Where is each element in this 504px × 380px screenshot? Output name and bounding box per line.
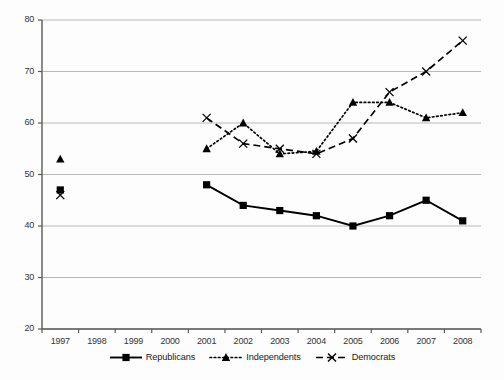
x-tick-label-1999: 1999 xyxy=(115,336,152,346)
data-point-independents-2001 xyxy=(202,144,210,152)
legend-item-democrats[interactable]: Democrats xyxy=(315,352,396,363)
data-point-republicans-2005 xyxy=(349,222,356,229)
legend-label-democrats: Democrats xyxy=(352,352,396,363)
chart-plot-area xyxy=(0,0,504,380)
x-tick-label-1998: 1998 xyxy=(79,336,116,346)
legend-swatch-x-icon xyxy=(315,352,349,363)
data-point-republicans-2003 xyxy=(276,207,283,214)
x-tick-label-2003: 2003 xyxy=(262,336,299,346)
y-tick-label-60: 60 xyxy=(8,117,34,127)
y-tick-label-40: 40 xyxy=(8,220,34,230)
legend-swatch-triangle-icon xyxy=(209,352,243,363)
legend-label-independents: Independents xyxy=(246,352,301,363)
y-tick-label-20: 20 xyxy=(8,323,34,333)
y-tick-label-80: 80 xyxy=(8,14,34,24)
x-tick-label-2005: 2005 xyxy=(335,336,372,346)
data-point-republicans-2007 xyxy=(423,197,430,204)
data-point-independents-2008 xyxy=(459,108,467,116)
data-point-republicans-2001 xyxy=(203,181,210,188)
data-point-republicans-2004 xyxy=(313,212,320,219)
chart-legend: RepublicansIndependentsDemocrats xyxy=(0,352,504,363)
x-tick-label-2002: 2002 xyxy=(225,336,262,346)
y-tick-label-70: 70 xyxy=(8,66,34,76)
data-point-republicans-2006 xyxy=(386,212,393,219)
series-line-democrats xyxy=(207,41,463,154)
x-tick-label-2004: 2004 xyxy=(298,336,335,346)
data-point-independents-1997 xyxy=(56,155,64,163)
y-tick-label-30: 30 xyxy=(8,272,34,282)
legend-swatch-square-icon xyxy=(109,352,143,363)
data-point-republicans-2002 xyxy=(240,202,247,209)
legend-item-republicans[interactable]: Republicans xyxy=(109,352,195,363)
line-chart: 80706050403020 1997199819992000200120022… xyxy=(0,0,504,380)
data-point-republicans-2008 xyxy=(459,217,466,224)
x-tick-label-2008: 2008 xyxy=(444,336,481,346)
x-tick-label-1997: 1997 xyxy=(42,336,79,346)
x-tick-label-2000: 2000 xyxy=(152,336,189,346)
legend-label-republicans: Republicans xyxy=(146,352,195,363)
x-tick-label-2006: 2006 xyxy=(371,336,408,346)
y-tick-label-50: 50 xyxy=(8,169,34,179)
legend-item-independents[interactable]: Independents xyxy=(209,352,301,363)
x-tick-label-2007: 2007 xyxy=(408,336,445,346)
x-tick-label-2001: 2001 xyxy=(188,336,225,346)
